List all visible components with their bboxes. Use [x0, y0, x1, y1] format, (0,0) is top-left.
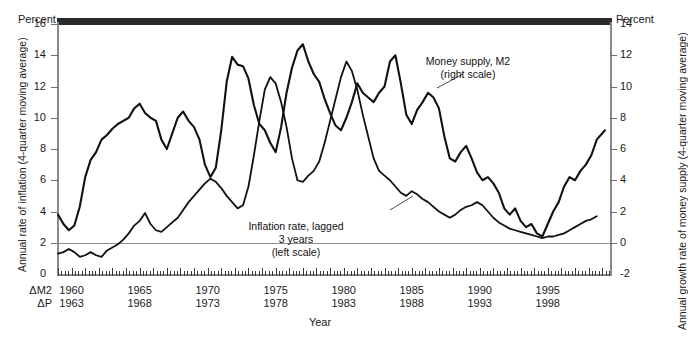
right-tick-label-6: 6 — [620, 142, 650, 155]
x-tick-label-p-1983: 1983 — [324, 297, 364, 310]
row-label-delta-m2: ΔM2 — [2, 284, 52, 297]
x-tick-label-m2-1975: 1975 — [256, 284, 296, 297]
x-tick-label-p-1993: 1993 — [460, 297, 500, 310]
left-tick-label-2: 2 — [14, 236, 46, 249]
x-axis-title: Year — [290, 316, 350, 329]
left-tick-label-12: 12 — [14, 80, 46, 93]
right-tick-label-4: 4 — [620, 173, 650, 186]
left-tick-label-0: 0 — [14, 267, 46, 280]
left-tick-label-4: 4 — [14, 205, 46, 218]
x-tick-label-m2-1980: 1980 — [324, 284, 364, 297]
right-tick-label-0: 0 — [620, 236, 650, 249]
right-axis-title: Annual growth rate of money supply (4-qu… — [676, 32, 688, 330]
left-tick-label-6: 6 — [14, 173, 46, 186]
inflation-callout: Inflation rate, lagged 3 years (left sca… — [206, 220, 386, 259]
right-tick-label-8: 8 — [620, 111, 650, 124]
left-tick-label-16: 16 — [14, 17, 46, 30]
x-tick-label-m2-1995: 1995 — [528, 284, 568, 297]
left-tick-label-10: 10 — [14, 111, 46, 124]
x-tick-label-p-1963: 1963 — [52, 297, 92, 310]
x-tick-label-m2-1985: 1985 — [392, 284, 432, 297]
row-label-delta-p: ΔP — [2, 297, 52, 310]
money-supply-callout: Money supply, M2 (right scale) — [378, 55, 558, 81]
right-tick-label-2: 2 — [620, 205, 650, 218]
x-tick-label-p-1973: 1973 — [188, 297, 228, 310]
right-tick-label-10: 10 — [620, 80, 650, 93]
x-tick-label-p-1998: 1998 — [528, 297, 568, 310]
x-tick-label-m2-1960: 1960 — [52, 284, 92, 297]
right-tick-label-12: 12 — [620, 48, 650, 61]
x-tick-label-m2-1990: 1990 — [460, 284, 500, 297]
x-tick-label-p-1988: 1988 — [392, 297, 432, 310]
x-tick-label-m2-1965: 1965 — [120, 284, 160, 297]
right-tick-label--2: -2 — [620, 267, 650, 280]
leader-line — [390, 196, 413, 210]
left-tick-label-14: 14 — [14, 48, 46, 61]
x-tick-label-p-1968: 1968 — [120, 297, 160, 310]
x-tick-label-p-1978: 1978 — [256, 297, 296, 310]
right-tick-label-14: 14 — [620, 17, 650, 30]
left-tick-label-8: 8 — [14, 142, 46, 155]
x-tick-label-m2-1970: 1970 — [188, 284, 228, 297]
